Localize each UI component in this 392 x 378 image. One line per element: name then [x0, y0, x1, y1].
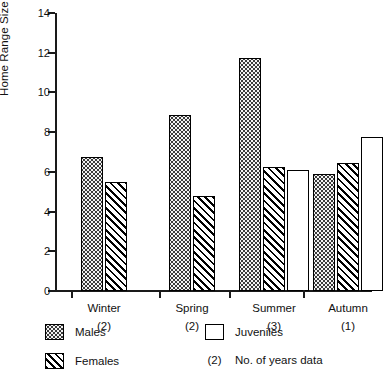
legend-item-males: Males — [45, 324, 106, 340]
x-tick-mark — [229, 290, 231, 298]
x-category-label: Autumn — [288, 302, 392, 315]
bar-winter-males — [81, 157, 103, 291]
y-tick-label: 12 — [38, 47, 50, 58]
legend-item-juveniles: Juveniles — [205, 324, 283, 340]
x-tick-mark — [71, 290, 73, 298]
bar-summer-females — [263, 167, 285, 291]
legend-item-years-note: (2) No. of years data — [205, 354, 323, 367]
legend-item-females: Females — [45, 353, 119, 369]
x-tick-mark — [159, 290, 161, 298]
bar-spring-females — [193, 196, 215, 291]
y-tick-label: 8 — [44, 127, 50, 138]
legend-label-males: Males — [75, 326, 106, 339]
juveniles-swatch-icon — [205, 324, 224, 340]
y-tick-label: 10 — [38, 87, 50, 98]
bar-autumn-females — [337, 163, 359, 291]
legend-label-females: Females — [75, 355, 119, 368]
y-tick-label: 4 — [44, 206, 50, 217]
bar-autumn-males — [313, 174, 335, 291]
bar-summer-males — [239, 58, 261, 291]
y-tick-label: 2 — [44, 246, 50, 257]
males-swatch-icon — [45, 324, 64, 340]
y-tick-label: 0 — [44, 286, 50, 297]
legend-years-key: (2) — [205, 354, 224, 367]
y-tick-label: 14 — [38, 8, 50, 19]
bar-spring-males — [169, 115, 191, 291]
bar-winter-females — [105, 182, 127, 291]
bar-autumn-juveniles — [361, 137, 383, 291]
legend-label-juveniles: Juveniles — [235, 326, 283, 339]
plot-area: 14121086420 — [55, 13, 372, 291]
chart-root: Home Range Size (ha) 14121086420 Winter(… — [0, 0, 392, 378]
y-axis-title: Home Range Size (ha) — [0, 0, 10, 96]
females-swatch-icon — [45, 353, 64, 369]
legend-label-years: No. of years data — [235, 354, 323, 367]
bar-summer-juveniles — [287, 170, 309, 291]
y-tick-label: 6 — [44, 166, 50, 177]
x-tick-mark — [303, 290, 305, 298]
chart-legend: Males Females Juveniles (2) No. of years… — [0, 320, 392, 378]
